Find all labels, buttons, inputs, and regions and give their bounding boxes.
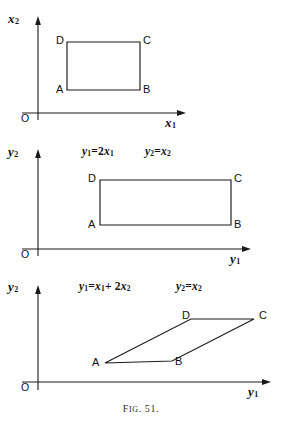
panel-1-vertex-c: C [143, 35, 151, 46]
panel-3-equation-1: y1=x1+ 2x2 [79, 281, 131, 293]
panel-2-x-axis-arrow [242, 246, 251, 252]
panel-3-y-axis-arrow [35, 285, 41, 294]
panel-1-x-axis-arrow [177, 110, 186, 116]
panel-1-vertex-b: B [143, 84, 150, 95]
panel-2-y-axis-arrow [35, 149, 41, 158]
panel-1-y-axis-label: x2 [8, 12, 19, 26]
figure-canvas [0, 0, 282, 421]
panel-1-axes [22, 16, 186, 120]
panel-3-vertex-c: C [259, 310, 267, 321]
panel-1-y-axis-arrow [35, 16, 41, 25]
panel-3-x-axis-label: y1 [248, 385, 258, 399]
panel-3-vertex-d: D [182, 310, 190, 321]
panel-1-vertex-d: D [56, 35, 64, 46]
panel-2-x-axis-label: y1 [230, 252, 240, 266]
panel-1-rectangle [67, 42, 140, 90]
panel-1-origin-label: O [21, 113, 29, 124]
panel-2-vertex-d: D [88, 173, 96, 184]
panel-2-y-axis-label: y2 [8, 145, 18, 159]
panel-2-rectangle [100, 180, 231, 225]
figure-caption: FIG. 51. [0, 403, 282, 414]
panel-1-x-axis-label: x1 [165, 116, 176, 130]
panel-1-shape-abcd [67, 42, 140, 90]
panel-2-vertex-c: C [234, 173, 242, 184]
panel-3-equation-2: y2=x2 [176, 281, 202, 293]
panel-3-y-axis-label: y2 [8, 280, 18, 294]
panel-2-vertex-b: B [234, 219, 241, 230]
panel-3-origin-label: O [21, 382, 29, 393]
panel-2-equation-1: y1=2x1 [82, 146, 114, 158]
panel-2-vertex-a: A [88, 219, 95, 230]
panel-2-shape-abcd [100, 180, 231, 225]
panel-2-origin-label: O [21, 249, 29, 260]
panel-3-vertex-a: A [92, 357, 99, 368]
panel-2-axes [22, 149, 251, 256]
panel-3-axes [22, 285, 271, 390]
panel-2-equation-2: y2=x2 [145, 146, 171, 158]
panel-3-vertex-b: B [175, 356, 182, 367]
panel-3-x-axis-arrow [262, 379, 271, 385]
panel-1-vertex-a: A [56, 84, 63, 95]
